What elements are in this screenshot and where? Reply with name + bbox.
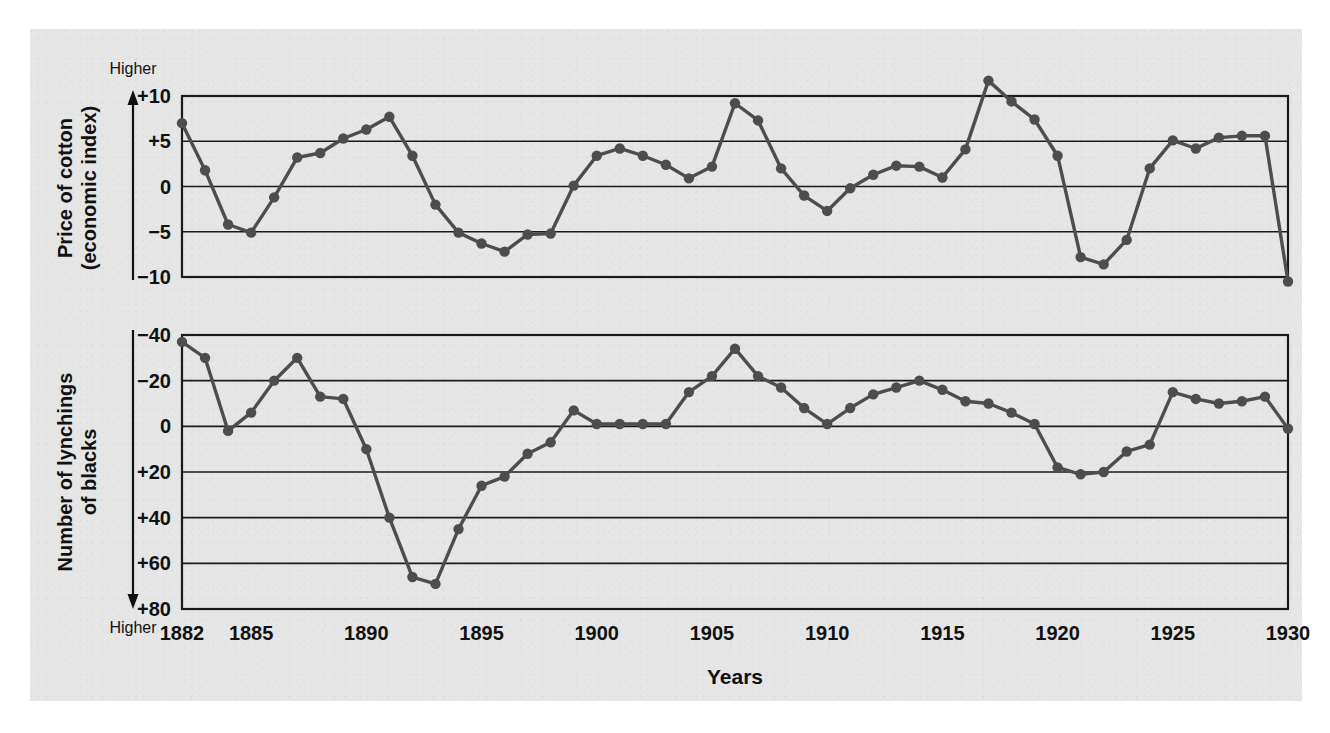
bottom-series-point: [615, 419, 625, 429]
top-series-point: [1098, 259, 1108, 269]
top-yaxis-title: Price of cotton(economic index): [54, 106, 100, 270]
bottom-series-point: [1006, 407, 1016, 417]
bottom-series-point: [361, 444, 371, 454]
bottom-series-point: [384, 512, 394, 522]
top-series-point: [868, 170, 878, 180]
top-series-point: [914, 161, 924, 171]
top-series-point: [1283, 276, 1293, 286]
top-series-point: [1260, 131, 1270, 141]
top-series-point: [753, 115, 763, 125]
top-series-point: [960, 144, 970, 154]
top-series-point: [983, 75, 993, 85]
xtick-label: 1930: [1266, 622, 1311, 644]
xaxis-title: Years: [707, 665, 763, 688]
top-series-point: [638, 151, 648, 161]
top-ytick-label: +10: [137, 85, 171, 107]
top-series-point: [407, 151, 417, 161]
top-series-point: [499, 246, 509, 256]
xtick-label: 1895: [459, 622, 504, 644]
bottom-series-point: [1052, 462, 1062, 472]
top-series-point: [177, 118, 187, 128]
xtick-label: 1890: [344, 622, 389, 644]
bottom-series-point: [707, 371, 717, 381]
top-ytick-label: −5: [148, 221, 171, 243]
top-series-point: [569, 180, 579, 190]
bottom-series-point: [430, 579, 440, 589]
top-series-point: [1191, 143, 1201, 153]
top-series-point: [1122, 235, 1132, 245]
top-series-point: [1168, 135, 1178, 145]
bottom-series-point: [891, 382, 901, 392]
bottom-series-point: [407, 572, 417, 582]
figure-container: +10+50−5−10HigherPrice of cotton(economi…: [0, 0, 1330, 733]
top-series-point: [730, 98, 740, 108]
top-series-point: [1029, 114, 1039, 124]
top-series-point: [822, 206, 832, 216]
bottom-series-point: [1214, 398, 1224, 408]
top-series-point: [776, 163, 786, 173]
top-ytick-label: 0: [160, 176, 171, 198]
top-ytick-label: +5: [148, 130, 171, 152]
dual-line-chart: +10+50−5−10HigherPrice of cotton(economi…: [0, 0, 1330, 733]
xtick-label: 1885: [229, 622, 274, 644]
bottom-ytick-label: +20: [137, 461, 171, 483]
top-series-point: [361, 124, 371, 134]
top-series-point: [453, 227, 463, 237]
top-series-point: [684, 173, 694, 183]
top-series-point: [615, 143, 625, 153]
bottom-series-point: [914, 375, 924, 385]
bottom-series-point: [1098, 467, 1108, 477]
bottom-series-point: [592, 419, 602, 429]
bottom-series-point: [776, 382, 786, 392]
bottom-series-point: [1191, 394, 1201, 404]
bottom-series-point: [799, 403, 809, 413]
bottom-series-point: [453, 524, 463, 534]
bottom-series-point: [960, 396, 970, 406]
bottom-series-point: [338, 394, 348, 404]
top-series-point: [384, 112, 394, 122]
xtick-label: 1910: [805, 622, 850, 644]
top-series-point: [292, 152, 302, 162]
top-series-point: [246, 227, 256, 237]
bottom-ytick-label: +60: [137, 552, 171, 574]
top-series-point: [661, 160, 671, 170]
top-series-point: [937, 172, 947, 182]
xtick-label: 1920: [1035, 622, 1080, 644]
top-ytick-label: −10: [137, 266, 171, 288]
xtick-label: 1882: [160, 622, 205, 644]
bottom-series-point: [753, 371, 763, 381]
top-yaxis-title-line2: (economic index): [78, 106, 100, 270]
top-series-point: [592, 151, 602, 161]
bottom-series-point: [269, 375, 279, 385]
bottom-series-point: [177, 337, 187, 347]
bottom-series-point: [1283, 423, 1293, 433]
bottom-series-point: [1237, 396, 1247, 406]
bottom-series-point: [937, 385, 947, 395]
bottom-ytick-label: 0: [160, 415, 171, 437]
bottom-series-point: [476, 481, 486, 491]
bottom-series-point: [684, 387, 694, 397]
top-series-point: [338, 133, 348, 143]
top-series-point: [269, 192, 279, 202]
top-series-point: [430, 199, 440, 209]
top-series-point: [891, 160, 901, 170]
top-series-point: [707, 161, 717, 171]
top-series-line: [182, 81, 1288, 282]
top-series-point: [315, 148, 325, 158]
bottom-series-point: [983, 398, 993, 408]
bottom-series-point: [1075, 469, 1085, 479]
bottom-series-point: [661, 419, 671, 429]
bottom-series-point: [730, 344, 740, 354]
bottom-series-point: [638, 419, 648, 429]
bottom-ytick-label: −20: [137, 370, 171, 392]
top-series-point: [522, 229, 532, 239]
top-series-point: [476, 238, 486, 248]
bottom-series-point: [292, 353, 302, 363]
bottom-ytick-label: −40: [137, 324, 171, 346]
bottom-series-point: [200, 353, 210, 363]
top-series-point: [545, 228, 555, 238]
xtick-label: 1905: [690, 622, 735, 644]
top-yaxis-title-line1: Price of cotton: [54, 118, 76, 258]
xtick-label: 1925: [1151, 622, 1196, 644]
bottom-chart-group: −40−200+20+40+60+80Higher: [109, 324, 1293, 636]
